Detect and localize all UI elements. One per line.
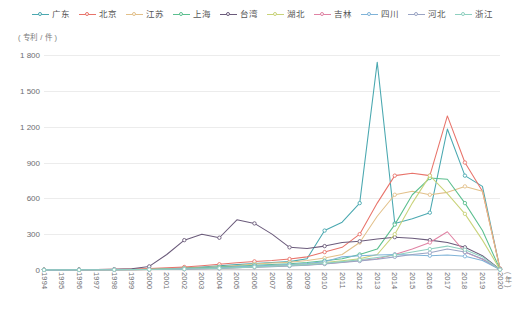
x-axis-tick-label: 2011 — [338, 272, 347, 289]
x-axis-tick-label: 2016 — [425, 272, 434, 290]
x-axis-tick-label: 2005 — [232, 272, 241, 290]
legend-item[interactable]: 台湾 — [220, 10, 258, 19]
legend-item-label: 湖北 — [287, 10, 305, 19]
legend-item[interactable]: 吉林 — [314, 10, 352, 19]
x-axis-title: ( 年 ) — [503, 272, 513, 288]
x-axis-tick-label: 1994 — [40, 272, 49, 290]
legend-marker-icon — [361, 10, 378, 19]
x-axis-tick-label: 2000 — [145, 272, 154, 290]
data-point[interactable] — [253, 222, 256, 225]
data-point[interactable] — [393, 253, 396, 256]
data-point[interactable] — [393, 223, 396, 226]
data-point[interactable] — [323, 244, 326, 247]
data-point[interactable] — [428, 251, 431, 254]
data-point[interactable] — [323, 262, 326, 265]
series-北京 — [42, 116, 501, 271]
legend-item[interactable]: 江苏 — [126, 10, 164, 19]
data-point[interactable] — [358, 240, 361, 243]
data-point[interactable] — [463, 161, 466, 164]
legend-item[interactable]: 广东 — [32, 10, 70, 19]
x-axis-tick-label: 2002 — [180, 272, 189, 290]
data-point[interactable] — [218, 267, 221, 270]
data-point[interactable] — [393, 193, 396, 196]
data-point[interactable] — [498, 268, 501, 271]
x-axis-tick-label: 1995 — [57, 272, 66, 290]
x-axis-tick-label: 1996 — [75, 272, 84, 290]
data-point[interactable] — [463, 174, 466, 177]
data-point[interactable] — [358, 254, 361, 257]
series-湖北 — [42, 174, 501, 272]
data-point[interactable] — [393, 174, 396, 177]
y-axis-tick-label: 1 200 — [0, 122, 40, 131]
legend-item-label: 浙江 — [475, 10, 493, 19]
legend-item[interactable]: 北京 — [79, 10, 117, 19]
legend-marker-icon — [126, 10, 143, 19]
legend-item[interactable]: 浙江 — [455, 10, 493, 19]
data-point[interactable] — [323, 229, 326, 232]
x-axis-tick-label: 2008 — [285, 272, 294, 290]
legend-marker-icon — [32, 10, 49, 19]
data-point[interactable] — [323, 250, 326, 253]
legend-item-label: 台湾 — [240, 10, 258, 19]
data-point[interactable] — [358, 201, 361, 204]
data-point[interactable] — [393, 232, 396, 235]
data-point[interactable] — [218, 236, 221, 239]
x-axis-tick-label: 2012 — [355, 272, 364, 290]
legend-item-label: 北京 — [99, 10, 117, 19]
x-axis-tick-label: 2003 — [197, 272, 206, 290]
legend-item[interactable]: 上海 — [173, 10, 211, 19]
x-axis-tick-label: 2004 — [215, 272, 224, 290]
y-axis-tick-labels: 1 8001 5001 2009006003000 — [0, 55, 40, 270]
series-line — [44, 62, 500, 270]
legend-item[interactable]: 河北 — [408, 10, 446, 19]
y-axis-tick-label: 900 — [0, 158, 40, 167]
data-point[interactable] — [463, 201, 466, 204]
data-point[interactable] — [183, 238, 186, 241]
data-point[interactable] — [358, 232, 361, 235]
x-axis-tick-label: 2001 — [162, 272, 171, 290]
legend-marker-icon — [220, 10, 237, 19]
legend-item-label: 四川 — [381, 10, 399, 19]
series-台湾 — [42, 220, 501, 272]
legend-item-label: 上海 — [193, 10, 211, 19]
series-上海 — [42, 176, 501, 271]
legend-marker-icon — [173, 10, 190, 19]
series-lines — [44, 55, 500, 270]
legend-marker-icon — [79, 10, 96, 19]
legend-item-label: 广东 — [52, 10, 70, 19]
legend-marker-icon — [314, 10, 331, 19]
data-point[interactable] — [183, 267, 186, 270]
legend-item-label: 河北 — [428, 10, 446, 19]
x-axis-tick-label: 2015 — [408, 272, 417, 290]
data-point[interactable] — [428, 193, 431, 196]
data-point[interactable] — [428, 247, 431, 250]
data-point[interactable] — [358, 258, 361, 261]
x-axis-tick-label: 2013 — [373, 272, 382, 290]
x-axis-tick-label: 2014 — [390, 272, 399, 290]
data-point[interactable] — [148, 268, 151, 271]
y-axis-tick-label: 0 — [0, 266, 40, 275]
data-point[interactable] — [253, 265, 256, 268]
legend-marker-icon — [455, 10, 472, 19]
x-axis-tick-label: 2006 — [250, 272, 259, 290]
data-point[interactable] — [463, 255, 466, 258]
x-axis-tick-label: 2017 — [443, 272, 452, 290]
legend-item[interactable]: 四川 — [361, 10, 399, 19]
data-point[interactable] — [288, 246, 291, 249]
patent-trend-line-chart: 广东北京江苏上海台湾湖北吉林四川河北浙江 ( 专利 / 件 ) 1 8001 5… — [0, 0, 525, 317]
x-axis-tick-label: 2007 — [268, 272, 277, 290]
data-point[interactable] — [463, 248, 466, 251]
data-point[interactable] — [428, 241, 431, 244]
data-point[interactable] — [288, 264, 291, 267]
data-point[interactable] — [428, 174, 431, 177]
data-point[interactable] — [463, 212, 466, 215]
series-line — [44, 116, 500, 270]
x-axis-tick-labels: 1994199519961997199819992000200120022003… — [44, 272, 500, 317]
legend-item-label: 江苏 — [146, 10, 164, 19]
legend-item[interactable]: 湖北 — [267, 10, 305, 19]
chart-legend: 广东北京江苏上海台湾湖北吉林四川河北浙江 — [0, 10, 525, 19]
y-axis-tick-label: 300 — [0, 230, 40, 239]
data-point[interactable] — [428, 211, 431, 214]
data-point[interactable] — [463, 185, 466, 188]
data-point[interactable] — [112, 268, 115, 271]
